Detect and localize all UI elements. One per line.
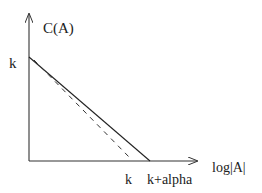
x-tick-label-k-plus-alpha: k+alpha [147, 172, 193, 187]
dashed-line [34, 60, 130, 158]
y-intercept-label: k [9, 55, 17, 71]
x-axis-label: log|A| [212, 160, 246, 175]
y-axis-label: C(A) [43, 20, 74, 37]
x-tick-label-k: k [125, 172, 132, 187]
solid-line [29, 57, 150, 161]
diagram-canvas: C(A) k k k+alpha log|A| [0, 0, 262, 193]
